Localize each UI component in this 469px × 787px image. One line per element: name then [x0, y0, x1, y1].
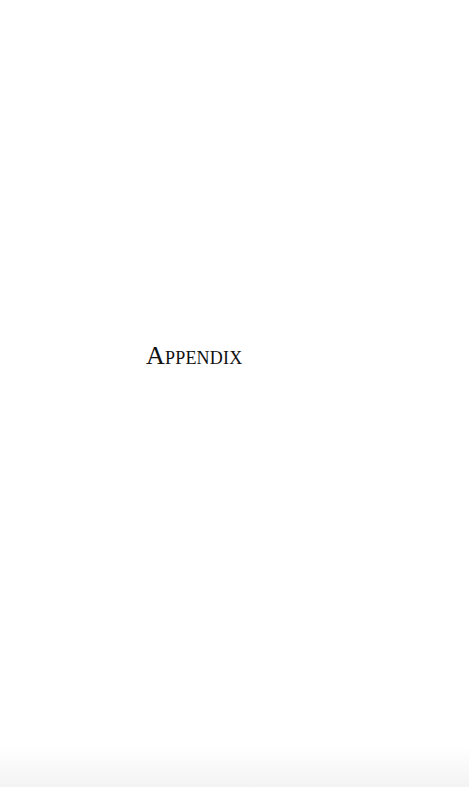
- document-page: Appendix: [0, 0, 469, 787]
- scan-shading: [0, 747, 469, 787]
- appendix-heading: Appendix: [146, 341, 242, 371]
